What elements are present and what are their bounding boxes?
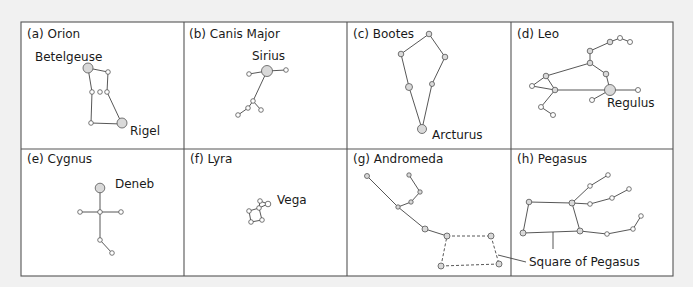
- panel-title: (g) Andromeda: [353, 152, 443, 166]
- star-icon: [246, 106, 251, 111]
- annotation-square-of-pegasus: Square of Pegasus: [529, 255, 640, 269]
- star-deneb-icon: [95, 183, 105, 193]
- star-icon: [247, 209, 252, 214]
- panel-title: (a) Orion: [27, 27, 80, 41]
- star-icon: [259, 108, 264, 113]
- star-icon: [249, 220, 254, 225]
- star-icon: [398, 51, 404, 57]
- star-icon: [636, 88, 641, 93]
- star-label-arcturus: Arcturus: [432, 128, 483, 142]
- star-icon: [98, 210, 103, 215]
- star-icon: [284, 68, 289, 73]
- star-icon: [438, 263, 444, 269]
- star-betelgeuse-icon: [83, 63, 93, 73]
- panel-title: (b) Canis Major: [189, 27, 280, 41]
- star-label-sirius: Sirius: [252, 49, 285, 63]
- star-icon: [247, 72, 252, 77]
- star-icon: [631, 227, 636, 232]
- star-icon: [618, 36, 623, 41]
- star-icon: [628, 40, 633, 45]
- star-icon: [98, 238, 103, 243]
- star-icon: [407, 173, 411, 177]
- star-icon: [587, 48, 593, 54]
- panel-title: (f) Lyra: [190, 152, 232, 166]
- star-icon: [444, 233, 450, 239]
- star-icon: [488, 233, 494, 239]
- star-icon: [520, 230, 526, 236]
- star-icon: [89, 121, 94, 126]
- star-label-vega: Vega: [277, 193, 307, 207]
- star-icon: [610, 196, 615, 201]
- star-icon: [90, 90, 95, 95]
- star-icon: [543, 73, 549, 79]
- star-icon: [422, 226, 428, 232]
- star-icon: [577, 228, 583, 234]
- star-icon: [426, 31, 432, 37]
- star-label-regulus: Regulus: [607, 96, 655, 110]
- panel-title: (e) Cygnus: [27, 152, 92, 166]
- star-icon: [639, 214, 644, 219]
- star-icon: [258, 199, 263, 204]
- star-sirius-icon: [262, 66, 273, 77]
- star-icon: [78, 210, 83, 215]
- star-label-rigel: Rigel: [130, 124, 160, 138]
- star-icon: [119, 210, 124, 215]
- star-icon: [526, 199, 532, 205]
- star-rigel-icon: [117, 118, 127, 128]
- constellation-diagram: (a) Orion Betelgeuse Rigel (b) Canis Maj…: [0, 0, 693, 287]
- star-label-betelgeuse: Betelgeuse: [35, 50, 102, 64]
- star-icon: [260, 218, 265, 223]
- star-icon: [530, 84, 535, 89]
- star-icon: [406, 84, 413, 91]
- star-icon: [105, 90, 110, 95]
- panel-title: (d) Leo: [517, 27, 559, 41]
- star-icon: [251, 99, 256, 104]
- panel-title: (c) Bootes: [353, 27, 414, 41]
- star-icon: [606, 173, 611, 178]
- panel-title: (h) Pegasus: [517, 152, 587, 166]
- star-icon: [418, 190, 422, 194]
- star-icon: [365, 174, 370, 179]
- star-icon: [496, 261, 502, 267]
- star-icon: [551, 113, 556, 118]
- star-icon: [605, 232, 610, 237]
- star-icon: [587, 60, 593, 66]
- star-icon: [106, 70, 111, 75]
- star-icon: [396, 205, 400, 209]
- star-icon: [552, 87, 558, 93]
- star-icon: [110, 251, 115, 256]
- star-icon: [588, 202, 593, 207]
- star-icon: [603, 71, 609, 77]
- star-icon: [590, 98, 595, 103]
- star-icon: [442, 54, 448, 60]
- star-icon: [607, 39, 613, 45]
- star-icon: [430, 82, 435, 87]
- star-icon: [569, 200, 575, 206]
- star-label-deneb: Deneb: [115, 177, 154, 191]
- star-icon: [257, 206, 262, 211]
- star-vega-icon: [265, 201, 271, 207]
- star-icon: [409, 200, 413, 204]
- star-icon: [627, 187, 632, 192]
- star-icon: [98, 90, 103, 95]
- star-icon: [236, 113, 241, 118]
- star-regulus-icon: [605, 85, 616, 96]
- star-icon: [588, 184, 593, 189]
- star-icon: [539, 105, 544, 110]
- star-arcturus-icon: [418, 125, 427, 134]
